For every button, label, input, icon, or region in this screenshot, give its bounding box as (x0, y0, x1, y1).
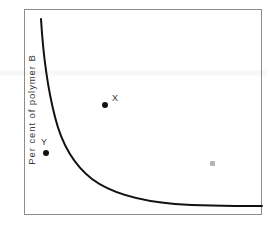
data-point-y (43, 150, 49, 156)
polymer-chart-figure: Per cent of polymer B X Y (0, 0, 267, 229)
data-point-unlabelled (210, 161, 215, 166)
solubility-curve-path (41, 19, 262, 206)
data-point-x-label: X (112, 93, 118, 103)
data-point-x (102, 102, 108, 108)
data-point-y-label: Y (41, 137, 47, 147)
curve-layer (0, 0, 267, 229)
